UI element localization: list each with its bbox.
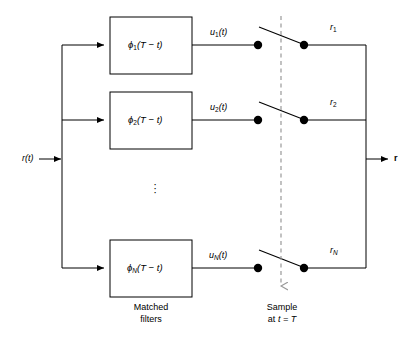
sample-caption-expr: t = T <box>278 314 296 324</box>
matched-filter-receiver-diagram: r(t) r ϕ1(T − t) u1(t) r1 ϕ2(T − t) u2(t… <box>0 0 416 341</box>
output-wire-group <box>366 45 388 268</box>
branch-2-signal-sub: 2 <box>215 106 219 113</box>
branch-2-switch-blade <box>259 102 305 120</box>
vertical-ellipsis: · · · <box>149 182 161 194</box>
branch-n-wires <box>62 240 366 297</box>
branch-n-signal-sub: N <box>214 254 219 261</box>
branch-1-output-sub: 1 <box>333 26 337 33</box>
branch-n-filter-label: ϕN(T − t) <box>127 262 163 273</box>
branch-1-left-contact-node <box>254 41 262 49</box>
branch-1-output-label: r1 <box>330 22 337 33</box>
branch-1-filter-arg: (T − t) <box>137 39 163 50</box>
branch-n-signal-label: uN(t) <box>209 250 227 261</box>
branch-n-output-sub: N <box>333 249 338 256</box>
ellipsis-dot-3: · <box>149 190 161 194</box>
branch-2-filter-arg: (T − t) <box>137 114 163 125</box>
branch-2-signal-arg: (t) <box>219 102 228 112</box>
branch-1-signal-label: u1(t) <box>210 27 227 38</box>
sample-caption: Sample at t = T <box>249 301 315 325</box>
diagram-canvas <box>0 0 416 341</box>
branch-n-filter-arg: (T − t) <box>137 262 163 273</box>
sample-caption-prefix: at <box>268 314 278 324</box>
input-signal-label: r(t) <box>22 153 34 164</box>
branch-1-switch-blade <box>259 27 305 45</box>
input-wire-group <box>39 45 62 268</box>
branch-2-left-contact-node <box>254 116 262 124</box>
branch-2-output-sub: 2 <box>333 101 337 108</box>
branch-2-wires <box>62 92 366 149</box>
branch-1-filter-sub: 1 <box>133 44 137 51</box>
branch-1-signal-arg: (t) <box>219 27 228 37</box>
branch-1-filter-label: ϕ1(T − t) <box>128 39 163 50</box>
branch-1-wires <box>62 17 366 74</box>
branch-n-signal-arg: (t) <box>219 250 228 260</box>
branch-2-output-label: r2 <box>330 97 337 108</box>
branch-n-switch-blade <box>259 250 305 268</box>
sample-caption-line1: Sample <box>249 301 315 313</box>
branch-1-signal-sub: 1 <box>215 31 219 38</box>
branch-2-filter-label: ϕ2(T − t) <box>128 114 163 125</box>
matched-filters-caption-line1: Matched <box>111 301 191 313</box>
branch-2-signal-label: u2(t) <box>210 102 227 113</box>
output-vector-label: r <box>394 153 398 164</box>
sample-caption-line2: at t = T <box>249 313 315 325</box>
branch-n-output-label: rN <box>330 245 338 256</box>
branch-n-filter-sub: N <box>132 267 137 274</box>
branch-n-left-contact-node <box>254 264 262 272</box>
matched-filters-caption-line2: filters <box>111 313 191 325</box>
branch-2-filter-sub: 2 <box>133 119 137 126</box>
matched-filters-caption: Matched filters <box>111 301 191 325</box>
